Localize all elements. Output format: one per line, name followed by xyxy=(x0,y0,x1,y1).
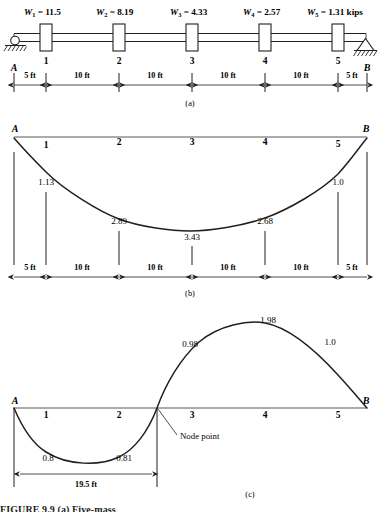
panel-a-caption: (a) xyxy=(185,99,195,108)
load-label-5: W5 = 1.31 kips xyxy=(307,7,363,18)
node-point-label: Node point xyxy=(180,431,220,441)
panel-a-load-labels: W1 = 11.5 W2 = 8.19 W3 = 4.33 W4 = 2.57 … xyxy=(24,7,363,18)
panel-a-label-A: A xyxy=(10,62,18,73)
dimension-label-b-3: 10 ft xyxy=(147,263,163,272)
deflection-label-b-4: 2.68 xyxy=(257,216,273,226)
deflection-label-c-3: 0.98 xyxy=(182,339,198,349)
panel-c-station-numbers: 1 2 3 4 5 xyxy=(44,410,341,420)
beam-mode-shape-figure: W1 = 11.5 W2 = 8.19 W3 = 4.33 W4 = 2.57 … xyxy=(0,0,381,512)
deflection-label-c-1: 0.8 xyxy=(42,453,54,463)
mass-block-4 xyxy=(259,24,271,51)
dimension-label-a-1: 5 ft xyxy=(24,71,36,80)
node-dimension-label: 19.5 ft xyxy=(75,480,97,489)
mass-block-1 xyxy=(40,24,52,51)
panel-b-deflection-labels: 1.13 2.89 3.43 2.68 1.0 xyxy=(38,177,344,242)
dimension-label-a-5: 10 ft xyxy=(293,71,309,80)
mass-block-2 xyxy=(113,24,125,51)
dimension-label-b-6: 5 ft xyxy=(346,263,358,272)
panel-a-dimension-ticks xyxy=(14,73,367,92)
mass-block-3 xyxy=(186,24,198,51)
deflection-label-c-5: 1.0 xyxy=(324,337,336,347)
panel-a-dimension-labels: 5 ft 10 ft 10 ft 10 ft 10 ft 5 ft xyxy=(24,71,358,80)
load-label-2: W2 = 8.19 xyxy=(96,7,134,18)
panel-b-station-3: 3 xyxy=(190,137,195,147)
support-left-roller xyxy=(4,36,27,51)
panel-b-station-4: 4 xyxy=(263,137,268,147)
panel-b-station-numbers: 1 2 3 4 5 xyxy=(44,137,341,150)
panel-c-station-5: 5 xyxy=(336,410,341,420)
panel-c-station-2: 2 xyxy=(117,410,122,420)
panel-b-caption: (b) xyxy=(185,289,195,298)
panel-c-station-4: 4 xyxy=(263,410,268,420)
station-number-1: 1 xyxy=(44,56,49,66)
mass-blocks xyxy=(40,24,344,51)
deflection-label-c-4: 1.98 xyxy=(260,315,276,325)
deflection-label-c-2: 0.81 xyxy=(116,453,132,463)
deflection-label-b-1: 1.13 xyxy=(38,177,54,187)
station-number-4: 4 xyxy=(263,56,268,66)
panel-c-upper-labels: 0.98 1.98 1.0 xyxy=(182,315,336,349)
panel-c-dimension-ticks xyxy=(14,408,157,487)
dimension-label-a-6: 5 ft xyxy=(346,71,358,80)
station-number-2: 2 xyxy=(117,56,122,66)
panel-a: W1 = 11.5 W2 = 8.19 W3 = 4.33 W4 = 2.57 … xyxy=(4,7,377,108)
panel-c-station-3: 3 xyxy=(190,410,195,420)
panel-a-station-numbers: 1 2 3 4 5 xyxy=(44,56,341,66)
panel-b-station-1: 1 xyxy=(44,140,49,150)
station-number-3: 3 xyxy=(190,56,195,66)
panel-c-caption: (c) xyxy=(245,490,255,499)
panel-b: A B 1 2 3 4 5 1.13 2.89 3.43 2.68 xyxy=(11,123,370,298)
dimension-label-a-2: 10 ft xyxy=(74,71,90,80)
load-label-1: W1 = 11.5 xyxy=(24,7,61,18)
dimension-label-b-4: 10 ft xyxy=(220,263,236,272)
panel-c: A B 1 2 3 4 5 0.98 1.98 1.0 0.8 0.81 Nod… xyxy=(11,315,370,499)
figure-root: W1 = 11.5 W2 = 8.19 W3 = 4.33 W4 = 2.57 … xyxy=(0,0,381,512)
dimension-label-b-1: 5 ft xyxy=(24,263,36,272)
panel-b-station-2: 2 xyxy=(117,137,122,147)
mass-block-5 xyxy=(332,24,344,51)
panel-c-station-1: 1 xyxy=(44,410,49,420)
panel-b-mode-curve xyxy=(14,138,367,231)
dimension-label-b-2: 10 ft xyxy=(74,263,90,272)
deflection-label-b-5: 1.0 xyxy=(332,177,344,187)
dimension-label-a-4: 10 ft xyxy=(220,71,236,80)
station-number-5: 5 xyxy=(336,56,341,66)
panel-b-dimension-labels: 5 ft 10 ft 10 ft 10 ft 10 ft 5 ft xyxy=(24,263,358,272)
panel-c-lower-labels: 0.8 0.81 xyxy=(42,453,132,463)
panel-b-deflection-ticks xyxy=(14,152,367,265)
panel-b-station-5: 5 xyxy=(336,139,341,149)
deflection-label-b-2: 2.89 xyxy=(111,216,127,226)
panel-b-label-A: A xyxy=(11,123,19,134)
panel-c-label-A: A xyxy=(11,395,19,406)
panel-a-label-B: B xyxy=(363,62,371,73)
deflection-label-b-3: 3.43 xyxy=(184,232,200,242)
panel-b-label-B: B xyxy=(362,123,370,134)
dimension-label-a-3: 10 ft xyxy=(147,71,163,80)
figure-caption: FIGURE 9.9 (a) Five-mass xyxy=(0,504,381,512)
load-label-3: W3 = 4.33 xyxy=(170,7,208,18)
dimension-label-b-5: 10 ft xyxy=(293,263,309,272)
load-label-4: W4 = 2.57 xyxy=(243,7,281,18)
